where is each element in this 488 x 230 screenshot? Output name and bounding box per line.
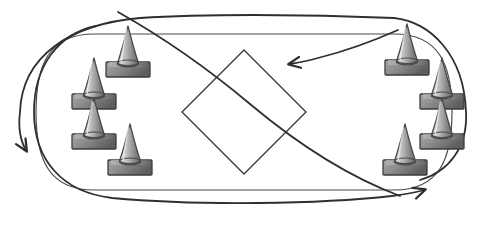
arrow-head-center-left (290, 30, 398, 64)
cone-right-top (385, 24, 429, 75)
cone-group-right (383, 24, 464, 175)
center-diamond (182, 50, 306, 174)
cone-group-left (72, 26, 152, 175)
drill-diagram-canvas (0, 0, 488, 230)
crossing-arrow-into-center (118, 12, 400, 196)
drill-diagram (0, 0, 488, 230)
